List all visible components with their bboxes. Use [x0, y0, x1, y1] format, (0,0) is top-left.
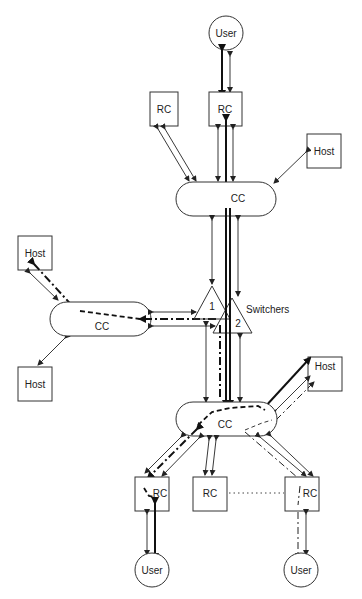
host-bottom-right-label: Host [315, 361, 336, 372]
host-left-bottom-node: Host [18, 367, 52, 401]
user-bottom-left-label: User [141, 565, 163, 576]
host-left-bottom-label: Host [25, 379, 46, 390]
user-bottom-left-node: User [135, 553, 169, 587]
user-top-node: User [209, 16, 243, 50]
host-left-top-label: Host [25, 248, 46, 259]
host-bottom-right-node: Host [308, 357, 342, 391]
cc-bottom-label: CC [218, 419, 232, 430]
host-top-right-label: Host [314, 146, 335, 157]
rc-bottom-center-node: RC [193, 477, 227, 511]
cc-bottom-node: CC [176, 402, 277, 436]
switcher-2-label: 2 [235, 318, 241, 329]
network-diagram: User RC RC Host CC Host Host [0, 0, 362, 599]
rc-bottom-left-node: RC [135, 477, 169, 511]
host-top-right-node: Host [307, 134, 341, 168]
rc-bottom-center-label: RC [203, 488, 217, 499]
user-bottom-right-label: User [290, 565, 312, 576]
switchers-label: Switchers [246, 304, 289, 315]
rc-top-left-node: RC [150, 92, 178, 126]
user-top-label: User [215, 28, 237, 39]
cc-left-label: CC [95, 321, 109, 332]
rc-bottom-right-label: RC [303, 488, 317, 499]
rc-top-left-label: RC [157, 104, 171, 115]
rc-bottom-right-node: RC [285, 477, 319, 511]
switcher-1: 1 [194, 286, 230, 319]
cc-top-label: CC [231, 193, 245, 204]
user-bottom-right-node: User [284, 553, 318, 587]
switcher-1-label: 1 [209, 301, 215, 312]
rc-top-center-label: RC [218, 104, 232, 115]
rc-bottom-left-label: RC [153, 488, 167, 499]
